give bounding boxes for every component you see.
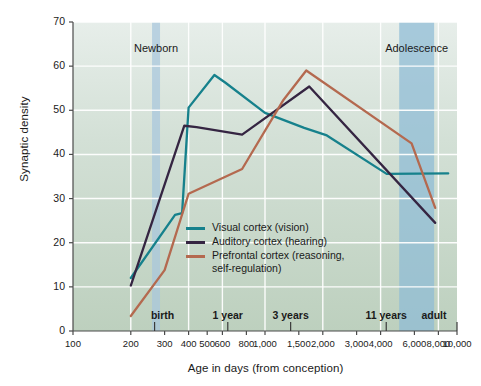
x-tick-label: 100 bbox=[53, 338, 93, 349]
y-tick-label: 60 bbox=[39, 59, 65, 71]
y-axis-title: Synaptic density bbox=[18, 29, 30, 249]
era-label: Adolescence bbox=[367, 42, 467, 54]
y-tick-label: 10 bbox=[39, 280, 65, 292]
y-tick-label: 70 bbox=[39, 15, 65, 27]
legend-label: Prefrontal cortex (reasoning, self-regul… bbox=[212, 249, 344, 275]
milestone-label: 1 year bbox=[193, 309, 263, 321]
legend-label: Visual cortex (vision) bbox=[212, 221, 309, 234]
legend-swatch bbox=[186, 255, 205, 258]
chart-root: 010203040506070 1002003004005006008001,0… bbox=[0, 0, 481, 386]
legend-label: Auditory cortex (hearing) bbox=[212, 235, 327, 248]
y-tick-label: 50 bbox=[39, 103, 65, 115]
milestone-label: birth bbox=[128, 309, 198, 321]
synaptic-density-line-chart bbox=[0, 0, 481, 386]
y-tick-label: 0 bbox=[39, 324, 65, 336]
chart-legend: Visual cortex (vision)Auditory cortex (h… bbox=[186, 221, 344, 276]
y-tick-label: 20 bbox=[39, 236, 65, 248]
y-tick-label: 30 bbox=[39, 192, 65, 204]
y-tick-label: 40 bbox=[39, 147, 65, 159]
legend-item: Visual cortex (vision) bbox=[186, 221, 344, 234]
legend-swatch bbox=[186, 241, 205, 244]
legend-swatch bbox=[186, 227, 205, 230]
legend-item: Prefrontal cortex (reasoning, self-regul… bbox=[186, 249, 344, 275]
era-band bbox=[399, 22, 434, 331]
milestone-label: adult bbox=[399, 309, 469, 321]
x-tick-label: 10,000 bbox=[437, 338, 477, 349]
legend-item: Auditory cortex (hearing) bbox=[186, 235, 344, 248]
milestone-label: 3 years bbox=[256, 309, 326, 321]
era-label: Newborn bbox=[106, 42, 206, 54]
x-axis-title: Age in days (from conception) bbox=[73, 362, 458, 374]
